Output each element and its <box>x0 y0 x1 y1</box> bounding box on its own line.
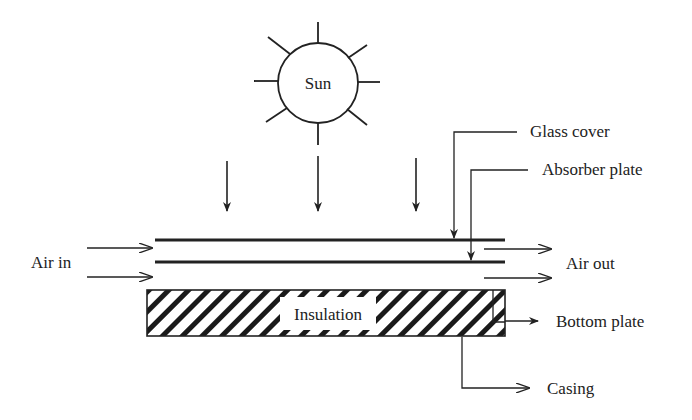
air-in-label: Air in <box>31 253 72 272</box>
sunlight-arrows <box>227 156 416 211</box>
air-out-label: Air out <box>566 254 615 273</box>
insulation-label: Insulation <box>294 305 362 324</box>
glass-cover-label: Glass cover <box>530 122 610 141</box>
casing-label: Casing <box>547 379 595 398</box>
bottom-plate-label: Bottom plate <box>556 312 644 331</box>
glass-cover-leader <box>454 132 517 238</box>
air-in-arrows <box>87 248 152 277</box>
absorber-plate-label: Absorber plate <box>542 160 643 179</box>
sun-label: Sun <box>305 74 332 93</box>
absorber-plate-leader <box>471 170 528 260</box>
solar-air-heater-diagram: Sun Glass cover Absorber plate Air in Ai… <box>0 0 692 420</box>
casing-leader <box>462 337 529 388</box>
